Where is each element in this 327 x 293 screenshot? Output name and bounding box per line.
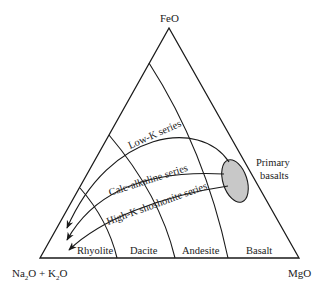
label-basalts: basalts [260,170,289,181]
ternary-triangle [40,28,299,258]
label-primary: Primary [256,157,291,168]
vertex-mgo: MgO [288,267,311,279]
label-dacite: Dacite [130,245,158,256]
label-andesite: Andesite [182,245,220,256]
label-rhyolite: Rhyolite [77,245,114,256]
trend-high-k-shoshonite [69,186,228,250]
label-basalt: Basalt [246,245,272,256]
afm-ternary-diagram: Low-K series Calc-alkaline series High-K… [0,0,327,293]
vertex-feo: FeO [160,12,179,24]
primary-basalts-ellipse [217,156,253,205]
vertex-na2o-k2o: Na2O + K2O [12,267,67,282]
label-low-k-series: Low-K series [126,118,182,151]
divider-andesite-basalt [149,63,228,258]
